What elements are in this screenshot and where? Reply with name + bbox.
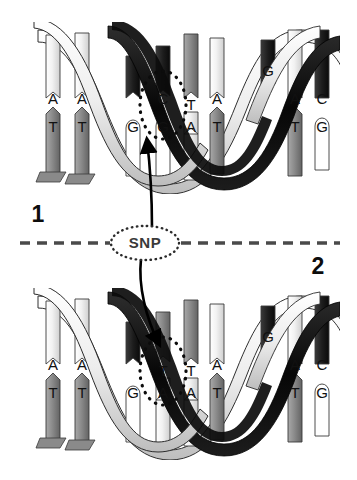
base-label: T [290,384,299,401]
base-label: T [212,384,221,401]
base-label-variant: T [158,362,167,379]
base-label: A [290,356,300,373]
base-label: G [262,62,274,79]
base-label: T [186,362,195,379]
snp-callout[interactable]: SNP [111,226,179,260]
base-label: A [290,90,300,107]
base-label: G [262,328,274,345]
base-label: T [77,384,86,401]
base-label: C [317,356,328,373]
base-label: A [77,356,87,373]
base-label: T [77,118,86,135]
base-label: A [48,356,58,373]
base-label-variant: G [157,118,169,135]
base-label: A [186,384,196,401]
base-label-variant: A [158,384,168,401]
base-label: G [127,118,139,135]
base-label: A [212,356,222,373]
panel-1-graphics: A T A T G C G T A A T G A T C G [0,0,357,480]
base-label: T [290,118,299,135]
base-label: T [212,118,221,135]
base-label: G [316,118,328,135]
snp-callout-label: SNP [129,234,161,251]
figure-canvas: A T A T G C G T A A T G A T C G [0,0,357,480]
panel-1-helix [26,18,342,202]
panel-number-1: 1 [32,201,45,227]
base-label: A [212,90,222,107]
base-label-variant: C [158,90,169,107]
base-label: G [127,384,139,401]
base-label: A [186,118,196,135]
base-label: G [316,384,328,401]
panel-number-2: 2 [312,253,325,279]
base-label: C [317,90,328,107]
base-label: T [186,96,195,113]
base-label: A [48,90,58,107]
base-label: T [48,118,57,135]
base-label: T [48,384,57,401]
base-label: A [77,90,87,107]
